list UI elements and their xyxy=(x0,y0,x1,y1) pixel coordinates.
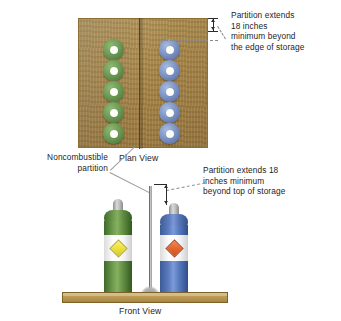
plan-cylinder-green-4 xyxy=(103,102,124,123)
dimension-tick-bottom xyxy=(208,31,218,32)
front-callout-leader-line xyxy=(166,182,205,191)
plan-view-panel xyxy=(78,18,208,148)
plan-view-partition-shadow xyxy=(140,18,142,149)
floor-highlight xyxy=(63,293,227,296)
front-dimension-arrow-up-icon xyxy=(164,185,168,188)
dimension-arrow-up-icon xyxy=(211,19,215,22)
plan-cylinder-blue-4 xyxy=(159,102,180,123)
cylinder-valve-hub xyxy=(110,46,118,54)
cylinder-valve-hub xyxy=(166,46,174,54)
cylinder-valve-hub xyxy=(110,67,118,75)
annotation-plan-extension: Partition extends 18 inches minimum beyo… xyxy=(231,10,339,52)
dimension-arrow-down-icon xyxy=(211,27,215,30)
annotation-noncombustible-partition: Noncombustible partition xyxy=(10,152,108,173)
plan-cylinder-green-2 xyxy=(103,60,124,81)
cylinder-valve-hub xyxy=(110,109,118,117)
front-view-partition xyxy=(149,186,152,293)
floor-texture xyxy=(79,19,207,147)
cylinder-label-band xyxy=(160,235,188,261)
front-view-floor xyxy=(62,292,228,303)
front-view-label: Front View xyxy=(119,306,161,316)
partition-label-leader-lower xyxy=(110,172,151,194)
front-dimension-arrow-down-icon xyxy=(164,201,168,204)
cylinder-valve-hub xyxy=(166,109,174,117)
cylinder-valve-hub xyxy=(110,88,118,96)
plan-callout-leader-elbow xyxy=(217,26,226,39)
plan-cylinder-blue-2 xyxy=(159,60,180,81)
plan-cylinder-green-1 xyxy=(103,39,124,60)
cylinder-valve-hub xyxy=(110,130,118,138)
annotation-front-extension: Partition extends 18 inches minimum beyo… xyxy=(203,165,339,197)
plan-cylinder-blue-3 xyxy=(159,81,180,102)
cylinder-label-band xyxy=(104,235,132,261)
plan-cylinder-green-3 xyxy=(103,81,124,102)
hazard-placard-orange xyxy=(165,239,183,257)
diagram-canvas: Partition extends 18 inches minimum beyo… xyxy=(0,0,341,321)
hazard-placard-yellow xyxy=(109,239,127,257)
plan-cylinder-green-5 xyxy=(103,123,124,144)
plan-callout-leader-line xyxy=(160,40,218,41)
cylinder-valve-hub xyxy=(166,130,174,138)
plan-cylinder-blue-1 xyxy=(159,39,180,60)
cylinder-valve-hub xyxy=(166,88,174,96)
plan-cylinder-blue-5 xyxy=(159,123,180,144)
cylinder-valve-hub xyxy=(166,67,174,75)
